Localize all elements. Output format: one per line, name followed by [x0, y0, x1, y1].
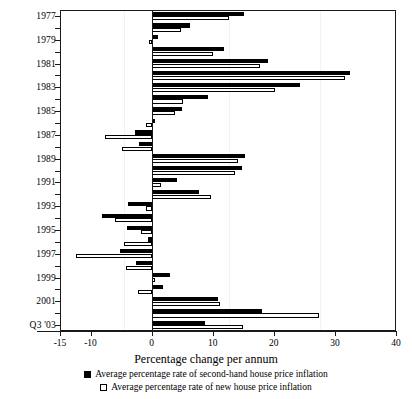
- bar-row: [60, 212, 396, 224]
- bar-new-house: [152, 111, 175, 115]
- bar-new-house: [152, 52, 213, 56]
- bar-second-hand: [102, 214, 152, 218]
- bar-second-hand: [152, 12, 244, 16]
- y-axis-tick: [55, 28, 60, 29]
- x-axis-tick: [396, 331, 397, 336]
- legend-swatch-filled-square-icon: [84, 371, 91, 378]
- y-axis-tick: [55, 194, 60, 195]
- x-axis-tick: [335, 331, 336, 336]
- bar-new-house: [115, 218, 152, 222]
- y-axis-tick: [55, 75, 60, 76]
- bar-new-house: [152, 159, 239, 163]
- legend-item-new-house: Average percentage rate of new house pri…: [0, 381, 412, 394]
- y-axis-tick: [55, 313, 60, 314]
- bar-new-house: [152, 183, 161, 187]
- bar-second-hand: [152, 297, 218, 301]
- bar-row: [60, 295, 396, 307]
- bar-row: [60, 141, 396, 153]
- bar-row: [60, 236, 396, 248]
- y-axis-tick: [55, 99, 60, 100]
- bar-second-hand: [152, 190, 200, 194]
- x-axis-tick: [274, 331, 275, 336]
- bar-new-house: [152, 64, 261, 68]
- bar-second-hand: [139, 142, 151, 146]
- bar-second-hand: [152, 71, 351, 75]
- y-axis-tick: [55, 218, 60, 219]
- legend-swatch-outlined-square-icon: [100, 384, 107, 391]
- bar-new-house: [124, 242, 152, 246]
- x-axis-label-0: 0: [132, 338, 172, 349]
- y-axis-label-2001: 2001: [0, 296, 56, 306]
- bar-row: [60, 224, 396, 236]
- bar-row: [60, 81, 396, 93]
- bar-second-hand: [120, 249, 152, 253]
- bar-row: [60, 117, 396, 129]
- x-axis-tick: [60, 331, 61, 336]
- bar-row: [60, 93, 396, 105]
- bar-row: [60, 69, 396, 81]
- bar-new-house: [152, 195, 212, 199]
- bar-row: [60, 22, 396, 34]
- bar-second-hand: [136, 261, 151, 265]
- y-axis-tick: [55, 266, 60, 267]
- bar-new-house: [105, 135, 151, 139]
- bar-second-hand: [135, 130, 152, 134]
- bar-row: [60, 283, 396, 295]
- y-axis-label-1983: 1983: [0, 82, 56, 92]
- bar-second-hand: [152, 95, 208, 99]
- bar-second-hand: [152, 47, 224, 51]
- y-axis-label-1979: 1979: [0, 35, 56, 45]
- y-axis-tick: [55, 171, 60, 172]
- bar-row: [60, 272, 396, 284]
- bar-row: [60, 188, 396, 200]
- bar-second-hand: [152, 154, 245, 158]
- legend-label-new-house: Average percentage rate of new house pri…: [111, 382, 312, 392]
- bar-row: [60, 46, 396, 58]
- bar-new-house: [141, 230, 152, 234]
- y-axis-label-1999: 1999: [0, 273, 56, 283]
- x-axis-label-30: 30: [315, 338, 355, 349]
- bar-new-house: [126, 266, 152, 270]
- x-axis-tick: [213, 331, 214, 336]
- bar-row: [60, 34, 396, 46]
- bar-row: [60, 260, 396, 272]
- x-axis-label-40: 40: [376, 338, 412, 349]
- bar-second-hand: [128, 202, 151, 206]
- y-axis-tick: [55, 123, 60, 124]
- bar-second-hand: [152, 59, 268, 63]
- bars-layer: [60, 10, 396, 331]
- house-price-inflation-chart: 1977197919811983198519871989199119931995…: [0, 0, 412, 399]
- x-axis-label-10: 10: [193, 338, 233, 349]
- bar-second-hand: [152, 285, 163, 289]
- bar-second-hand: [152, 83, 300, 87]
- zero-baseline: [152, 10, 153, 331]
- y-axis-label-Q303: Q3 '03: [0, 320, 56, 330]
- bar-row: [60, 165, 396, 177]
- y-axis-label-1989: 1989: [0, 154, 56, 164]
- y-axis-tick: [55, 52, 60, 53]
- x-axis-tick: [91, 331, 92, 336]
- x-axis-label-20: 20: [254, 338, 294, 349]
- bar-second-hand: [152, 107, 183, 111]
- bar-new-house: [152, 99, 184, 103]
- y-axis-label-1981: 1981: [0, 59, 56, 69]
- x-axis-tick: [152, 331, 153, 336]
- y-axis-label-1997: 1997: [0, 249, 56, 259]
- y-axis-label-1977: 1977: [0, 11, 56, 21]
- legend-item-second-hand: Average percentage rate of second-hand h…: [0, 368, 412, 381]
- y-axis-label-1991: 1991: [0, 177, 56, 187]
- chart-legend: Average percentage rate of second-hand h…: [0, 368, 412, 393]
- bar-row: [60, 153, 396, 165]
- bar-new-house: [152, 302, 220, 306]
- bar-second-hand: [152, 273, 170, 277]
- bar-row: [60, 319, 396, 331]
- x-axis-label-neg10: -10: [71, 338, 111, 349]
- bar-new-house: [152, 325, 243, 329]
- x-axis-title: Percentage change per annum: [0, 352, 412, 366]
- y-axis-label-1993: 1993: [0, 201, 56, 211]
- bar-row: [60, 200, 396, 212]
- bar-second-hand: [152, 166, 242, 170]
- y-axis-label-1987: 1987: [0, 130, 56, 140]
- bar-row: [60, 129, 396, 141]
- bar-row: [60, 248, 396, 260]
